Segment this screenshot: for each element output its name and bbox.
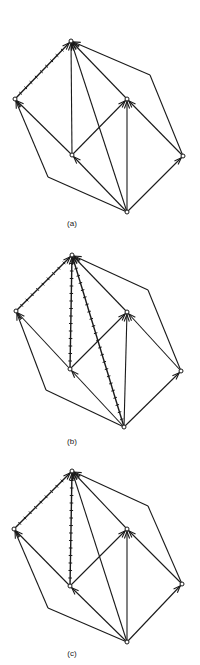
edge-L-T: [14, 471, 72, 529]
graph-figure: [0, 0, 200, 665]
caption-b: (b): [57, 437, 87, 446]
edge-B-F: [127, 584, 182, 642]
caption-c: (c): [57, 649, 87, 658]
node-F: [180, 582, 184, 586]
edge-F-R: [127, 529, 182, 584]
caption-a: (a): [57, 219, 87, 228]
edge-M-T: [68, 255, 74, 369]
edge-R-T: [71, 41, 127, 99]
edge-B-M: [72, 155, 127, 212]
panel-b: [14, 253, 183, 429]
panel-c: [12, 469, 184, 644]
edge-M-R: [72, 99, 127, 155]
node-R: [125, 527, 129, 531]
edge-F-R: [127, 99, 183, 156]
edge-M-R: [70, 312, 127, 369]
node-F: [181, 154, 185, 158]
node-T: [70, 253, 74, 257]
edge-M-L: [16, 311, 70, 369]
node-T: [69, 39, 73, 43]
node-F: [179, 369, 183, 373]
edge-M-R: [70, 529, 127, 586]
node-M: [68, 367, 72, 371]
edge-B-R: [124, 99, 129, 212]
edge-B-F: [127, 156, 183, 212]
node-M: [68, 584, 72, 588]
panel-a: [13, 39, 185, 214]
edge-B-R: [124, 312, 129, 427]
node-R: [125, 97, 129, 101]
node-L: [13, 97, 17, 101]
node-B: [122, 425, 126, 429]
node-L: [12, 527, 16, 531]
edge-B-T: [71, 41, 127, 212]
edge-M-T: [68, 471, 74, 586]
edge-B-F: [124, 371, 181, 427]
node-B: [125, 640, 129, 644]
node-R: [125, 310, 129, 314]
edge-M-L: [15, 99, 72, 155]
edge-B-R: [124, 529, 129, 642]
edge-F-R: [127, 312, 181, 371]
edge-L-T: [16, 255, 72, 311]
node-T: [70, 469, 74, 473]
edge-L-T: [15, 41, 71, 99]
node-M: [70, 153, 74, 157]
node-B: [125, 210, 129, 214]
edge-M-T: [68, 41, 73, 155]
node-L: [14, 309, 18, 313]
edge-M-L: [14, 529, 70, 586]
edge-R-T: [72, 471, 127, 529]
